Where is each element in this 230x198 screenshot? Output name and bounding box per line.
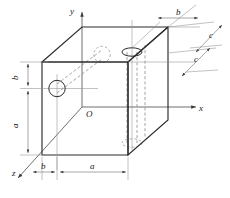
axis-x-label: x [198, 103, 203, 113]
dimension-bottom-a: a [60, 157, 128, 180]
dimension-bottom-b: b [33, 157, 57, 180]
dimension-left-a-label: a [10, 123, 20, 128]
axis-y: y [69, 6, 82, 107]
dimension-bottom-b-label: b [41, 161, 46, 171]
dimension-right-c-upper-label: c [209, 30, 213, 40]
engineering-drawing-figure: y x z O [0, 0, 230, 198]
dimension-left-b-label: b [10, 75, 20, 80]
dimension-bottom-a-label: a [90, 161, 95, 171]
axis-z: z [11, 107, 82, 178]
dimension-right-c-lower-label: c [194, 54, 198, 64]
axis-y-label: y [69, 6, 74, 16]
axis-x: x [82, 103, 203, 113]
dimension-right-c-upper: c [168, 22, 222, 52]
axis-z-label: z [11, 168, 16, 178]
block-solid-edges [42, 27, 168, 155]
dimension-top-b-label: b [176, 7, 181, 17]
hole-center-lines [20, 20, 132, 170]
drawing-canvas: y x z O [0, 0, 230, 198]
dimension-left-a: a [10, 91, 46, 155]
reference-guide-lines [128, 27, 200, 62]
origin-label: O [86, 109, 93, 119]
